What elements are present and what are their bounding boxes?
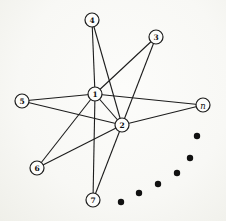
ellipsis-dot-4 <box>174 170 180 176</box>
edge-2-n <box>122 105 203 125</box>
node-label-n: n <box>200 101 205 111</box>
edge-1-n <box>95 94 203 105</box>
ellipsis-dots-layer <box>118 133 200 205</box>
node-label-5: 5 <box>19 97 24 106</box>
node-4: 4 <box>85 13 99 27</box>
edge-2-3 <box>122 37 156 125</box>
node-6: 6 <box>30 161 44 175</box>
edge-1-5 <box>22 94 95 101</box>
node-label-4: 4 <box>89 16 94 25</box>
edge-2-5 <box>22 101 122 125</box>
edge-1-6 <box>37 94 95 168</box>
graph-diagram: 4315n267 <box>0 0 226 221</box>
edge-1-4 <box>92 20 95 94</box>
edge-2-6 <box>37 125 122 168</box>
node-label-7: 7 <box>90 196 95 205</box>
node-label-3: 3 <box>153 33 158 42</box>
node-label-6: 6 <box>34 164 39 173</box>
node-3: 3 <box>149 30 163 44</box>
edge-1-3 <box>95 37 156 94</box>
node-5: 5 <box>15 94 29 108</box>
ellipsis-dot-2 <box>136 190 142 196</box>
edge-2-7 <box>93 125 122 200</box>
edge-1-7 <box>93 94 95 200</box>
node-label-1: 1 <box>92 90 97 99</box>
node-n: n <box>196 98 210 112</box>
node-2: 2 <box>115 118 129 132</box>
ellipsis-dot-5 <box>187 155 193 161</box>
node-label-2: 2 <box>119 121 124 130</box>
ellipsis-dot-6 <box>194 133 200 139</box>
graph-canvas: 4315n267 <box>0 0 226 221</box>
node-7: 7 <box>86 193 100 207</box>
ellipsis-dot-1 <box>118 199 124 205</box>
node-1: 1 <box>88 87 102 101</box>
ellipsis-dot-3 <box>155 181 161 187</box>
